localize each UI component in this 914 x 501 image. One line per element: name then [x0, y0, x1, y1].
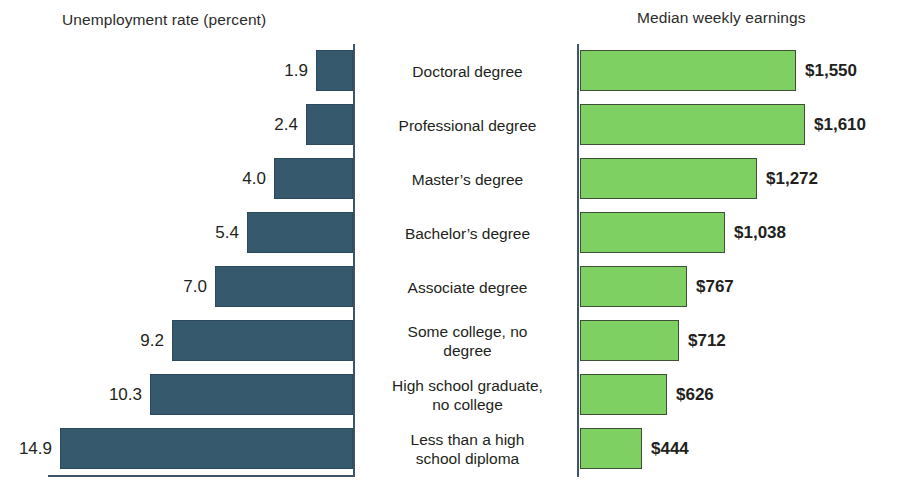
earnings-bar — [580, 374, 667, 415]
earnings-row: $626 — [577, 368, 914, 422]
unemployment-value-label: 5.4 — [215, 223, 239, 243]
earnings-row: $1,550 — [577, 44, 914, 98]
category-label: Associate degree — [358, 278, 577, 297]
category-row: Master’s degree — [358, 152, 577, 206]
category-label: High school graduate,no college — [358, 376, 577, 414]
unemployment-bar — [274, 158, 353, 199]
category-row: Doctoral degree — [358, 44, 577, 98]
unemployment-bar — [306, 104, 353, 145]
category-label: Less than a highschool diploma — [358, 430, 577, 468]
unemployment-row: 1.9 — [0, 44, 358, 98]
category-label-line1: Some college, no — [364, 322, 571, 341]
earnings-row: $1,610 — [577, 98, 914, 152]
unemployment-bar — [215, 266, 353, 307]
earnings-row: $712 — [577, 314, 914, 368]
unemployment-bar — [316, 50, 353, 91]
unemployment-row: 10.3 — [0, 368, 358, 422]
earnings-value-label: $712 — [688, 331, 726, 351]
earnings-bar — [580, 320, 679, 361]
unemployment-value-label: 14.9 — [19, 439, 52, 459]
category-label: Doctoral degree — [358, 62, 577, 81]
category-label: Professional degree — [358, 116, 577, 135]
category-label-line1: Doctoral degree — [364, 62, 571, 81]
earnings-row: $1,038 — [577, 206, 914, 260]
category-label: Bachelor’s degree — [358, 224, 577, 243]
unemployment-value-label: 7.0 — [183, 277, 207, 297]
earnings-value-label: $767 — [696, 277, 734, 297]
unemployment-row: 5.4 — [0, 206, 358, 260]
earnings-bar — [580, 104, 805, 145]
unemployment-value-label: 1.9 — [284, 61, 308, 81]
category-label-line1: Bachelor’s degree — [364, 224, 571, 243]
unemployment-bar — [172, 320, 353, 361]
earnings-value-label: $444 — [651, 439, 689, 459]
unemployment-value-label: 9.2 — [140, 331, 164, 351]
unemployment-row: 14.9 — [0, 422, 358, 476]
earnings-row: $444 — [577, 422, 914, 476]
earnings-value-label: $1,038 — [734, 223, 786, 243]
category-label-line1: High school graduate, — [364, 376, 571, 395]
category-label-line1: Less than a high — [364, 430, 571, 449]
education-pays-chart: Unemployment rate (percent) Median weekl… — [0, 0, 914, 501]
unemployment-row: 7.0 — [0, 260, 358, 314]
earnings-value-label: $1,550 — [805, 61, 857, 81]
unemployment-bar — [247, 212, 353, 253]
category-label-pane: Doctoral degreeProfessional degreeMaster… — [358, 0, 577, 501]
unemployment-chart-pane: 1.92.44.05.47.09.210.314.9 — [0, 0, 358, 501]
unemployment-value-label: 2.4 — [274, 115, 298, 135]
category-row: Professional degree — [358, 98, 577, 152]
category-row: High school graduate,no college — [358, 368, 577, 422]
category-label-line1: Associate degree — [364, 278, 571, 297]
earnings-bar — [580, 428, 642, 469]
earnings-chart-pane: $1,550$1,610$1,272$1,038$767$712$626$444 — [577, 0, 914, 501]
unemployment-value-label: 10.3 — [109, 385, 142, 405]
category-label: Master’s degree — [358, 170, 577, 189]
earnings-bar — [580, 212, 725, 253]
category-label: Some college, nodegree — [358, 322, 577, 360]
category-row: Less than a highschool diploma — [358, 422, 577, 476]
category-label-line1: Master’s degree — [364, 170, 571, 189]
earnings-bar — [580, 50, 796, 91]
earnings-bar — [580, 266, 687, 307]
earnings-value-label: $1,272 — [766, 169, 818, 189]
category-row: Associate degree — [358, 260, 577, 314]
category-row: Some college, nodegree — [358, 314, 577, 368]
earnings-row: $1,272 — [577, 152, 914, 206]
unemployment-bar — [60, 428, 353, 469]
unemployment-row: 4.0 — [0, 152, 358, 206]
category-label-line2: school diploma — [364, 449, 571, 468]
unemployment-bar — [150, 374, 353, 415]
category-label-line1: Professional degree — [364, 116, 571, 135]
earnings-row: $767 — [577, 260, 914, 314]
category-label-line2: no college — [364, 395, 571, 414]
earnings-bar — [580, 158, 757, 199]
category-label-line2: degree — [364, 341, 571, 360]
earnings-value-label: $1,610 — [814, 115, 866, 135]
unemployment-row: 2.4 — [0, 98, 358, 152]
unemployment-value-label: 4.0 — [242, 169, 266, 189]
category-row: Bachelor’s degree — [358, 206, 577, 260]
earnings-value-label: $626 — [676, 385, 714, 405]
unemployment-row: 9.2 — [0, 314, 358, 368]
